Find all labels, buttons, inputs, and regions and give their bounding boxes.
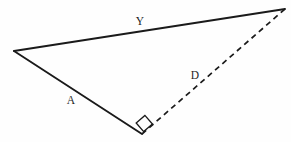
label-y: Y: [136, 15, 145, 27]
label-a: A: [67, 94, 76, 106]
label-d: D: [191, 69, 199, 81]
triangle-figure: Y A D: [0, 0, 291, 142]
edge-a-line: [14, 51, 142, 134]
right-angle-marker-icon: [136, 115, 152, 131]
geometry-diagram-canvas: Y A D: [0, 0, 291, 142]
